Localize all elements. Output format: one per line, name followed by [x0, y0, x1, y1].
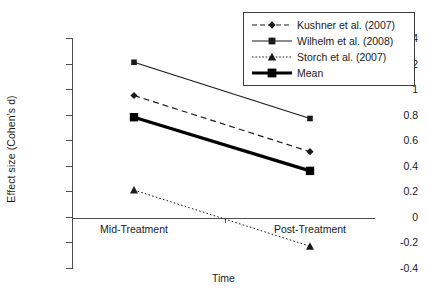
series-marker — [306, 167, 314, 175]
y-axis-title: Effect size (Cohen's d) — [0, 0, 22, 298]
y-tick-mark — [66, 38, 72, 39]
y-tick-mark — [66, 89, 72, 90]
legend-label-kushner: Kushner et al. (2007) — [294, 19, 395, 31]
legend-item: Kushner et al. (2007) — [244, 17, 414, 33]
y-tick-mark — [66, 242, 72, 243]
y-tick-label: 0.6 — [371, 134, 427, 146]
legend-label-wilhelm: Wilhelm et al. (2008) — [294, 35, 393, 47]
legend-swatch-kushner — [250, 17, 294, 33]
series-line — [134, 96, 310, 152]
legend-swatch-wilhelm — [250, 33, 294, 49]
x-tick-label: Mid-Treatment — [100, 223, 168, 235]
y-tick-label: 0.8 — [371, 109, 427, 121]
x-tick-mark — [225, 218, 226, 223]
data-series — [130, 113, 314, 175]
y-tick-label: -0.2 — [371, 236, 427, 248]
series-marker — [130, 92, 137, 99]
series-marker — [306, 148, 313, 155]
zero-baseline — [72, 218, 375, 219]
x-tick-label: Post-Treatment — [274, 223, 346, 235]
legend: Kushner et al. (2007) Wilhelm et al. (20… — [243, 12, 415, 86]
legend-item: Mean — [244, 65, 414, 81]
legend-label-mean: Mean — [294, 67, 323, 79]
series-marker — [306, 242, 314, 249]
series-marker — [130, 186, 138, 193]
y-tick-label: 0.2 — [371, 185, 427, 197]
legend-swatch-storch — [250, 49, 294, 65]
y-tick-mark — [66, 115, 72, 116]
y-tick-label: -0.4 — [371, 262, 427, 274]
y-tick-mark — [66, 140, 72, 141]
y-tick-mark — [66, 64, 72, 65]
data-series — [130, 92, 313, 155]
x-axis-title: Time — [72, 272, 375, 284]
legend-swatch-mean — [250, 65, 294, 81]
legend-label-storch: Storch et al. (2007) — [294, 51, 386, 63]
y-tick-label: 0 — [371, 211, 427, 223]
y-tick-mark — [66, 217, 72, 218]
legend-item: Storch et al. (2007) — [244, 49, 414, 65]
series-marker — [130, 113, 138, 121]
y-tick-mark — [66, 166, 72, 167]
legend-item: Wilhelm et al. (2008) — [244, 33, 414, 49]
y-axis-line — [72, 38, 73, 269]
series-marker — [307, 116, 313, 122]
chart-figure: Effect size (Cohen's d) 1.41.210.80.60.4… — [0, 0, 427, 298]
series-line — [134, 117, 310, 171]
y-tick-mark — [66, 191, 72, 192]
y-tick-mark — [66, 268, 72, 269]
series-marker — [131, 59, 137, 65]
y-tick-label: 0.4 — [371, 160, 427, 172]
